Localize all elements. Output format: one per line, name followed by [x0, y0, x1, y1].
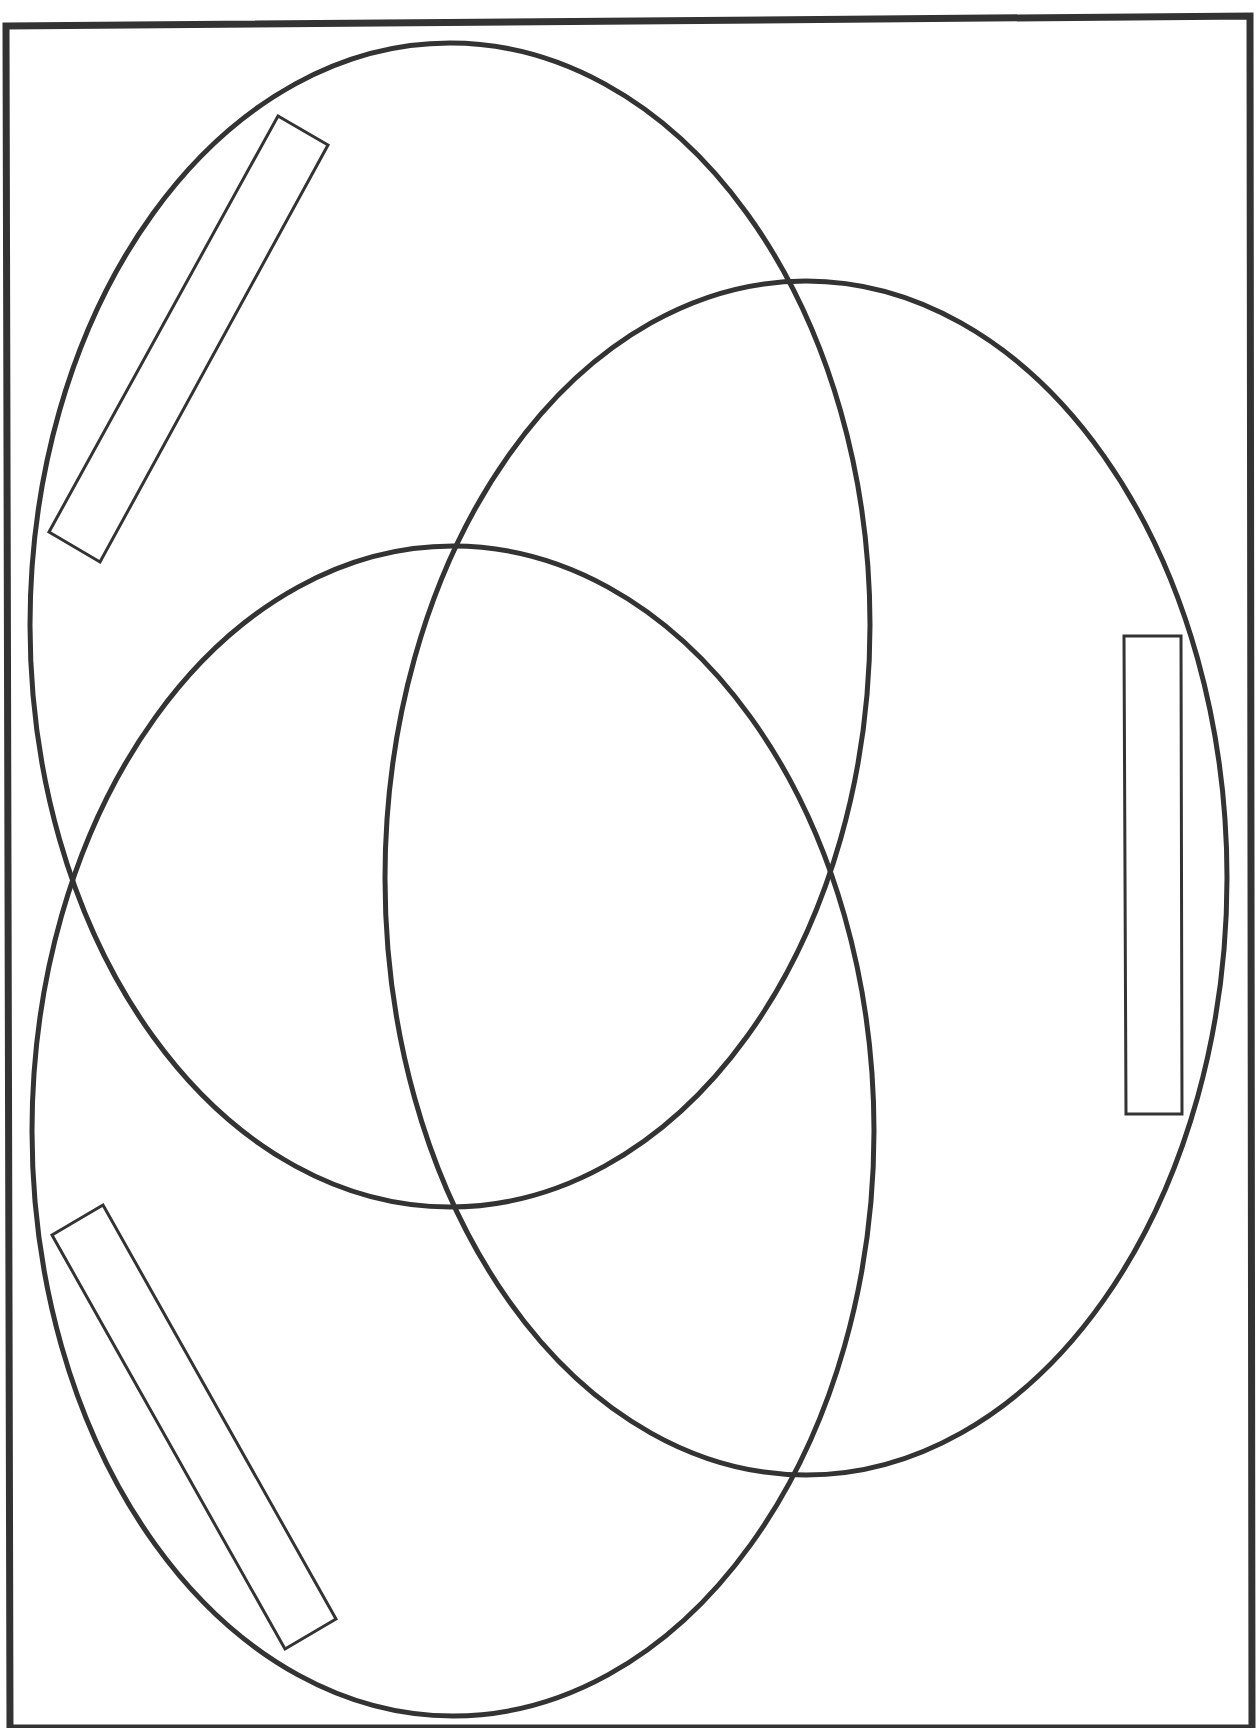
label-box-bottom-left[interactable] — [52, 1205, 336, 1649]
circle-bottom-left — [32, 546, 874, 1716]
circle-right — [385, 281, 1227, 1475]
label-box-right[interactable] — [1124, 636, 1182, 1114]
venn-diagram — [0, 0, 1256, 1728]
label-box-top-left[interactable] — [49, 116, 328, 562]
circle-top-left — [30, 43, 870, 1207]
